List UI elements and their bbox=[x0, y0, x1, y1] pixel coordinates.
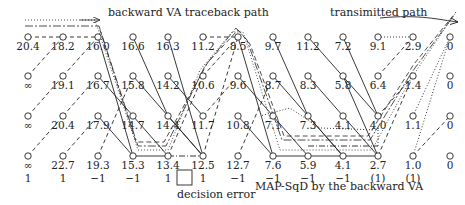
path-metric: 8.5 bbox=[230, 40, 247, 52]
path-metric: ∞ bbox=[24, 119, 33, 131]
path-metric: 2.7 bbox=[370, 159, 387, 171]
path-metric: 10.8 bbox=[226, 119, 249, 131]
path-metric: 14.4 bbox=[156, 119, 180, 131]
path-metric: 10.6 bbox=[191, 79, 215, 91]
map-sqd-label: MAP-SqD by the backward VA bbox=[255, 180, 424, 193]
path-metric: 4.1 bbox=[335, 119, 352, 131]
decision-error-label: decision error bbox=[177, 188, 256, 201]
decision-value: −1 bbox=[90, 172, 105, 184]
path-metric: 1.4 bbox=[405, 79, 422, 91]
path-metric: 14.2 bbox=[156, 79, 179, 91]
path-metric: 15.3 bbox=[121, 159, 144, 171]
path-metric: 19.1 bbox=[51, 79, 74, 91]
dashed-branches bbox=[28, 37, 450, 156]
path-metric: 11.2 bbox=[296, 40, 319, 52]
path-metric: 17.9 bbox=[86, 119, 109, 131]
path-metric: 1.1 bbox=[405, 119, 422, 131]
decision-value: −1 bbox=[230, 172, 245, 184]
path-metric: 18.2 bbox=[51, 40, 74, 52]
path-metric: 0 bbox=[447, 119, 454, 131]
path-metric: 19.3 bbox=[86, 159, 109, 171]
path-metric: 16.0 bbox=[86, 40, 109, 52]
path-metric: 0 bbox=[447, 159, 454, 171]
path-metric: 8.7 bbox=[265, 79, 282, 91]
path-metric: 20.4 bbox=[16, 40, 40, 52]
decision-value: 1 bbox=[25, 172, 32, 184]
path-metric: 7.3 bbox=[300, 119, 317, 131]
metric-labels: 20.418.216.016.616.311.28.59.711.27.29.1… bbox=[16, 40, 453, 171]
decision-value: −1 bbox=[125, 172, 140, 184]
path-metric: 14.7 bbox=[121, 119, 144, 131]
decision-value: 1 bbox=[200, 172, 207, 184]
path-metric: 20.4 bbox=[51, 119, 75, 131]
decision-value: 1 bbox=[165, 172, 172, 184]
path-metric: ∞ bbox=[24, 159, 33, 171]
path-metric: 12.7 bbox=[226, 159, 249, 171]
path-metric: 16.6 bbox=[121, 40, 145, 52]
decision-value: 1 bbox=[60, 172, 67, 184]
path-metric: 8.3 bbox=[300, 79, 317, 91]
traceback-label: backward VA traceback path bbox=[108, 6, 269, 19]
transmitted-label: transimitted path bbox=[330, 6, 427, 19]
path-metric: 5.8 bbox=[335, 79, 352, 91]
path-metric: 22.7 bbox=[51, 159, 74, 171]
path-metric: 11.2 bbox=[191, 40, 214, 52]
path-metric: 9.7 bbox=[265, 40, 282, 52]
trellis-nodes bbox=[25, 34, 453, 159]
path-metric: 7.6 bbox=[265, 159, 282, 171]
path-metric: 4.1 bbox=[335, 159, 352, 171]
path-metric: 2.9 bbox=[405, 40, 422, 52]
path-metric: 15.8 bbox=[121, 79, 144, 91]
path-metric: 6.4 bbox=[370, 79, 387, 91]
path-metric: 16.7 bbox=[86, 79, 109, 91]
path-metric: 9.6 bbox=[230, 79, 247, 91]
decision-error-box bbox=[177, 170, 192, 185]
path-metric: 7.2 bbox=[335, 40, 352, 52]
path-metric: 1.0 bbox=[405, 159, 422, 171]
path-metric: 9.1 bbox=[370, 40, 387, 52]
path-metric: 4.0 bbox=[370, 119, 387, 131]
path-metric: ∞ bbox=[24, 79, 33, 91]
survivor-branches bbox=[98, 37, 378, 156]
path-metric: 5.9 bbox=[300, 159, 317, 171]
path-metric: 0 bbox=[447, 79, 454, 91]
path-metric: 16.3 bbox=[156, 40, 179, 52]
path-metric: 13.4 bbox=[156, 159, 180, 171]
path-metric: 7.1 bbox=[265, 119, 282, 131]
path-metric: 12.5 bbox=[191, 159, 214, 171]
trellis-diagram: 20.418.216.016.616.311.28.59.711.27.29.1… bbox=[0, 0, 465, 205]
path-metric: 0 bbox=[447, 40, 454, 52]
path-metric: 11.7 bbox=[191, 119, 214, 131]
